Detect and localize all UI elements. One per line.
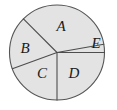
- pie-diagram-figure: A B C D E: [0, 0, 117, 110]
- pie-diagram-svg: A B C D E: [0, 0, 117, 110]
- sector-label-a: A: [55, 18, 66, 34]
- sector-label-e: E: [90, 35, 100, 51]
- sector-label-c: C: [37, 65, 48, 81]
- sector-label-b: B: [20, 40, 29, 56]
- sector-label-d: D: [68, 65, 80, 81]
